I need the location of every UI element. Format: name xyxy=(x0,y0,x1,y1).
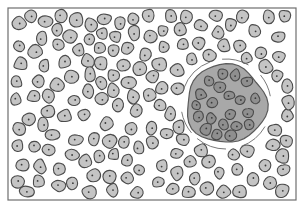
cell xyxy=(110,31,121,42)
cell xyxy=(237,10,249,23)
cell-membrane xyxy=(115,17,125,30)
nucleus-dot xyxy=(158,64,160,66)
cell-membrane xyxy=(177,134,190,145)
nucleus-dot xyxy=(40,38,42,40)
nucleus-dot xyxy=(223,45,225,47)
cell-membrane xyxy=(95,93,108,105)
cell-membrane xyxy=(156,82,168,94)
nucleus-dot xyxy=(87,91,89,93)
cell xyxy=(282,79,293,93)
cell xyxy=(45,130,59,140)
cell xyxy=(144,30,157,42)
cell xyxy=(69,13,82,27)
nucleus-dot xyxy=(136,109,138,111)
nucleus-dot xyxy=(37,81,39,83)
cell-membrane xyxy=(37,31,47,45)
nucleus-dot xyxy=(223,191,225,193)
nucleus-dot xyxy=(26,191,28,193)
cell xyxy=(69,135,84,145)
cell-membrane xyxy=(94,43,105,54)
cell xyxy=(108,45,119,57)
nucleus-dot xyxy=(19,45,21,47)
nucleus-dot xyxy=(74,99,76,101)
nucleus-dot xyxy=(122,65,124,67)
nucleus-dot xyxy=(131,129,133,131)
nucleus-dot xyxy=(79,50,81,52)
cell xyxy=(158,26,168,36)
cell xyxy=(38,117,48,131)
nucleus-dot xyxy=(20,62,22,64)
cell-membrane xyxy=(53,39,64,50)
nucleus-dot xyxy=(93,138,95,140)
nucleus-dot xyxy=(133,33,135,35)
nucleus-dot xyxy=(214,15,216,17)
cell xyxy=(121,77,136,89)
nucleus-dot xyxy=(48,149,50,151)
nucleus-dot xyxy=(100,81,102,83)
cell-membrane xyxy=(160,129,173,139)
nucleus-dot xyxy=(283,15,285,17)
cell xyxy=(29,141,41,152)
nucleus-dot xyxy=(163,30,165,32)
cell xyxy=(53,163,65,175)
nucleus-dot xyxy=(161,166,163,168)
nucleus-dot xyxy=(64,115,66,117)
cell xyxy=(55,9,67,22)
nucleus-dot xyxy=(236,168,238,170)
cell xyxy=(37,31,47,45)
cell xyxy=(63,30,78,43)
nucleus-dot xyxy=(216,132,218,134)
cell xyxy=(143,9,155,22)
cell-membrane xyxy=(243,108,254,117)
cell xyxy=(259,160,271,172)
nucleus-dot xyxy=(105,122,107,124)
cell xyxy=(13,123,26,136)
nucleus-dot xyxy=(239,191,241,193)
nucleus-dot xyxy=(177,173,179,175)
nucleus-dot xyxy=(269,182,271,184)
nucleus-dot xyxy=(148,15,150,17)
nucleus-dot xyxy=(188,191,190,193)
cell xyxy=(268,124,281,136)
nucleus-dot xyxy=(74,139,76,141)
cell xyxy=(108,70,119,81)
nucleus-dot xyxy=(286,116,288,118)
nucleus-dot xyxy=(57,84,59,86)
cell xyxy=(157,160,167,172)
cell xyxy=(243,108,254,117)
cell xyxy=(160,129,173,139)
cell xyxy=(128,13,139,24)
cell-membrane xyxy=(193,111,203,122)
cell xyxy=(225,110,235,120)
cell-membrane xyxy=(247,173,258,186)
cell xyxy=(59,55,71,68)
cell-membrane xyxy=(204,76,213,86)
nucleus-dot xyxy=(21,164,23,166)
nucleus-dot xyxy=(272,145,274,147)
cell-membrane xyxy=(38,117,48,131)
nucleus-dot xyxy=(217,31,219,33)
nucleus-dot xyxy=(91,175,93,177)
nucleus-dot xyxy=(128,82,130,84)
cell xyxy=(38,16,53,27)
cell xyxy=(11,76,22,87)
cell-membrane xyxy=(249,25,261,37)
nucleus-dot xyxy=(265,165,267,167)
cell-membrane xyxy=(55,9,67,22)
nucleus-dot xyxy=(120,23,122,25)
nucleus-dot xyxy=(209,161,211,163)
cell xyxy=(64,70,78,83)
cell xyxy=(115,17,125,30)
nucleus-dot xyxy=(282,168,284,170)
nucleus-dot xyxy=(87,60,89,62)
cell xyxy=(171,148,183,158)
nucleus-dot xyxy=(31,16,33,18)
cell-membrane xyxy=(95,57,107,70)
nucleus-dot xyxy=(48,96,50,98)
cell xyxy=(280,135,292,147)
nucleus-dot xyxy=(277,35,279,37)
cell-membrane xyxy=(218,39,230,52)
cell-membrane xyxy=(212,129,222,140)
cell-diagram xyxy=(0,0,299,207)
cell-membrane xyxy=(63,30,78,43)
